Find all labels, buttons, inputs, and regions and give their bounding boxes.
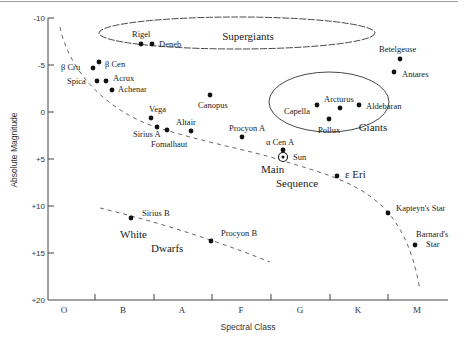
- x-tick: K: [355, 305, 362, 315]
- region-label-supergiants: Supergiants: [222, 30, 274, 42]
- region-label-sequence: Sequence: [276, 177, 318, 189]
- star-label-alpha-cen-a: α Cen A: [266, 137, 295, 147]
- y-tick: +5: [36, 155, 46, 164]
- star-dot-procyon-b: [209, 239, 214, 244]
- star-label-beta-cen: β Cen: [105, 59, 126, 69]
- star-label-pollux: Pollux: [318, 125, 341, 135]
- star-label-sun: Sun: [293, 152, 307, 162]
- star-dot-rigel: [139, 42, 144, 47]
- star-label-aldebaran: Aldebaran: [366, 101, 402, 111]
- star-dot-sirius-b: [129, 216, 134, 221]
- x-tick: F: [238, 305, 243, 315]
- y-tick-labels: -10 -5 0 +5 +10 +15 +20: [31, 14, 45, 305]
- star-label-arcturus: Arcturus: [324, 94, 354, 104]
- star-dot-epsilon-eri: [335, 174, 340, 179]
- star-dot-barnard: [413, 243, 418, 248]
- y-tick: +20: [31, 296, 45, 305]
- star-label-beta-cru: β Cru: [61, 62, 81, 72]
- star-dot-procyon-a: [240, 135, 245, 140]
- star-dot-alpha-cen-a: [281, 148, 286, 153]
- star-label-barnard-2: Star: [426, 239, 440, 249]
- x-tick: A: [179, 305, 186, 315]
- star-dot-achenar: [110, 88, 115, 93]
- x-tick-labels: O B A F G K M: [61, 305, 421, 315]
- star-label-rigel: Rigel: [132, 29, 151, 39]
- star-label-acrux: Acrux: [113, 73, 135, 83]
- y-tick: +15: [31, 249, 45, 258]
- region-label-giants: Giants: [359, 121, 388, 133]
- x-tick: B: [120, 305, 126, 315]
- star-dot-betelgeuse: [398, 57, 403, 62]
- star-label-epsilon-eri: ε Eri: [345, 168, 366, 180]
- star-label-procyon-a: Procyon A: [229, 123, 266, 133]
- star-dot-altair: [189, 129, 194, 134]
- star-label-achenar: Achenar: [118, 84, 147, 94]
- star-labels: Rigel Deneb β Cru β Cen Spica Acrux Ache…: [61, 29, 448, 249]
- star-label-sirius-a: Sirius A: [133, 129, 161, 139]
- star-label-kapteyn: Kapteyn's Star: [396, 203, 446, 213]
- star-dot-aldebaran: [357, 103, 362, 108]
- y-axis-title: Absolute Magnitude: [9, 112, 19, 187]
- region-label-main: Main: [261, 163, 285, 175]
- sun-icon: [279, 153, 288, 162]
- star-dot-pollux: [327, 117, 332, 122]
- y-tick: +10: [31, 202, 45, 211]
- star-dot-fomalhaut: [165, 128, 170, 133]
- star-points: [91, 42, 418, 248]
- star-label-spica: Spica: [67, 76, 86, 86]
- star-dot-acrux: [104, 79, 109, 84]
- star-label-vega: Vega: [149, 104, 166, 114]
- star-dot-vega: [149, 116, 154, 121]
- star-dot-beta-cen: [97, 60, 102, 65]
- star-dot-canopus: [208, 93, 213, 98]
- y-tick: -10: [33, 14, 45, 23]
- x-tick: G: [297, 305, 304, 315]
- star-label-altair: Altair: [176, 117, 196, 127]
- star-dot-deneb: [150, 42, 155, 47]
- y-tick: -5: [38, 61, 46, 70]
- star-dot-capella: [315, 103, 320, 108]
- star-label-sirius-b: Sirius B: [142, 208, 170, 218]
- star-dot-arcturus: [338, 106, 343, 111]
- star-dot-beta-cru: [91, 66, 96, 71]
- hr-diagram: -10 -5 0 +5 +10 +15 +20 O B A F G K M Sp…: [0, 0, 469, 346]
- star-label-fomalhaut: Fomalhaut: [151, 139, 188, 149]
- x-tick: O: [61, 305, 68, 315]
- star-label-canopus: Canopus: [198, 100, 228, 110]
- star-dot-spica: [95, 79, 100, 84]
- star-dot-kapteyn: [386, 211, 391, 216]
- region-label-dwarfs: Dwarfs: [151, 242, 183, 254]
- star-label-betelgeuse: Betelgeuse: [379, 44, 417, 54]
- x-tick: M: [413, 305, 421, 315]
- x-axis-title: Spectral Class: [221, 322, 276, 332]
- star-label-deneb: Deneb: [159, 39, 181, 49]
- star-dot-antares: [392, 70, 397, 75]
- star-label-antares: Antares: [402, 69, 428, 79]
- star-label-barnard-1: Barnard's: [416, 229, 448, 239]
- star-label-procyon-b: Procyon B: [221, 228, 257, 238]
- y-tick: 0: [41, 108, 46, 117]
- region-label-white: White: [120, 228, 147, 240]
- star-label-capella: Capella: [284, 106, 310, 116]
